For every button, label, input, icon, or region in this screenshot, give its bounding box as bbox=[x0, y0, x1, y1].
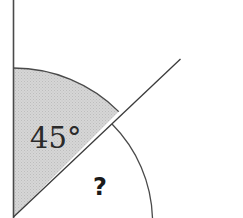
angle-diagram: 45° ? bbox=[0, 0, 243, 218]
unknown-angle-label: ? bbox=[93, 173, 107, 201]
unknown-angle-arc bbox=[112, 124, 153, 218]
known-angle-label: 45° bbox=[30, 121, 81, 155]
